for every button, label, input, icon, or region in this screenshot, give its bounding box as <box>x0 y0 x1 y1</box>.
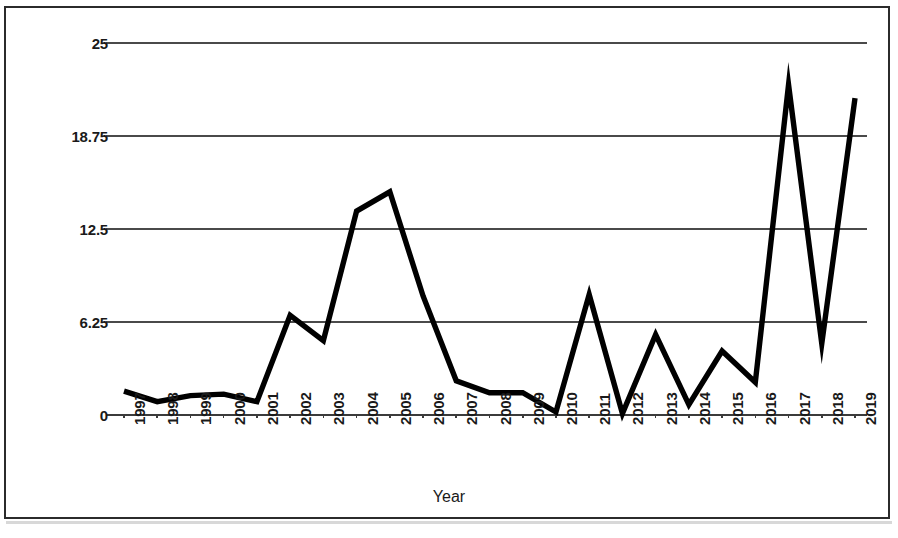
y-tick-label: 18.75 <box>40 128 108 145</box>
y-tick-label: 6.25 <box>40 314 108 331</box>
x-tick-label: 2019 <box>862 392 879 425</box>
x-tick-label: 2005 <box>397 392 414 425</box>
x-tick-label: 2000 <box>231 392 248 425</box>
x-tick-label: 2010 <box>563 392 580 425</box>
chart-figure: 06.2512.518.7525 19971998199920002001200… <box>0 0 898 538</box>
data-series-line <box>124 85 855 414</box>
x-tick-label: 1997 <box>131 392 148 425</box>
x-tick-label: 2006 <box>430 392 447 425</box>
x-tick-label: 2018 <box>829 392 846 425</box>
x-tick-label: 2015 <box>729 392 746 425</box>
x-tick-label: 2001 <box>264 392 281 425</box>
x-tick-label: 2007 <box>463 392 480 425</box>
x-tick-label: 2002 <box>297 392 314 425</box>
x-tick-label: 2011 <box>596 393 613 425</box>
x-tick-label: 2004 <box>364 392 381 425</box>
y-tick-label: 0 <box>40 407 108 424</box>
x-tick-label: 2014 <box>696 392 713 425</box>
x-tick-label: 2017 <box>796 392 813 425</box>
x-tick-label: 2013 <box>663 392 680 425</box>
y-tick-label: 12.5 <box>40 221 108 238</box>
line-chart-svg <box>0 0 898 538</box>
y-tick-label: 25 <box>40 35 108 52</box>
x-tick-label: 2008 <box>497 392 514 425</box>
x-tick-label: 2012 <box>629 392 646 425</box>
plot-area: 06.2512.518.7525 19971998199920002001200… <box>0 0 898 538</box>
x-axis-title: Year <box>0 488 898 506</box>
x-tick-label: 2016 <box>762 392 779 425</box>
gridlines-group <box>106 43 867 415</box>
x-tick-label: 2009 <box>530 392 547 425</box>
x-tick-label: 1998 <box>164 392 181 425</box>
x-tick-label: 2003 <box>330 392 347 425</box>
x-tick-label: 1999 <box>197 392 214 425</box>
